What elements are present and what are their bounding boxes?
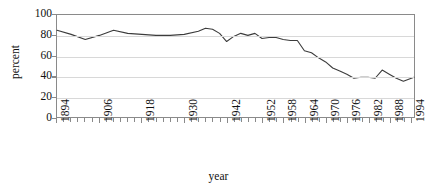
x-tick-label: 1982 (373, 99, 385, 122)
x-tick-label: 1994 (415, 99, 427, 122)
gridline (57, 36, 414, 37)
x-tick-label: 1976 (351, 99, 363, 122)
y-tick-label: 80 (2, 29, 52, 41)
y-tick-label: 20 (2, 91, 52, 103)
y-tick-label: 60 (2, 50, 52, 62)
x-tick-label: 1988 (394, 99, 406, 122)
x-tick-label: 1958 (287, 99, 299, 122)
x-tick-label: 1906 (103, 99, 115, 122)
chart-container: percent 100806040200 1894190619181930194… (0, 0, 437, 189)
x-tick-label: 1964 (309, 99, 321, 122)
x-tick-label: 1894 (60, 99, 72, 122)
x-tick-label: 1930 (188, 99, 200, 122)
x-tick-label: 1970 (330, 99, 342, 122)
gridline (57, 77, 414, 78)
y-tick-label: 40 (2, 70, 52, 82)
y-tick-label: 100 (2, 8, 52, 20)
gridline (57, 57, 414, 58)
x-tick-label: 1942 (231, 99, 243, 122)
x-tick-label: 1918 (145, 99, 157, 122)
x-tick-label: 1952 (266, 99, 278, 122)
x-axis-labels: 1894190619181930194219521958196419701976… (0, 118, 437, 168)
x-axis-title: year (0, 170, 437, 182)
